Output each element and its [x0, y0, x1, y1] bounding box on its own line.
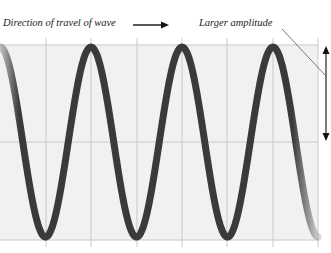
- arrow-down-icon: [323, 133, 330, 141]
- amplitude-label: Larger amplitude: [199, 17, 272, 28]
- arrow-right-icon: [161, 22, 169, 29]
- wave-diagram: [0, 0, 331, 253]
- direction-arrow: [133, 22, 169, 29]
- direction-label: Direction of travel of wave: [3, 17, 116, 28]
- arrow-up-icon: [323, 46, 330, 54]
- amplitude-arrow: [323, 46, 330, 141]
